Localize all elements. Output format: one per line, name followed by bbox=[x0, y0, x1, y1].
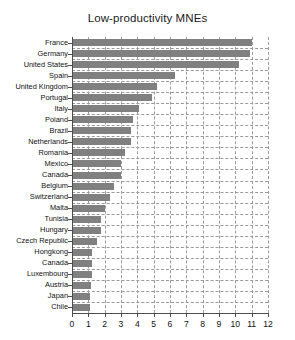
y-axis-tick bbox=[68, 274, 72, 275]
gridline-horizontal bbox=[72, 103, 268, 104]
y-axis-tick bbox=[68, 109, 72, 110]
x-axis-tick-label: 12 bbox=[258, 319, 278, 329]
gridline-horizontal bbox=[72, 247, 268, 248]
y-axis-tick bbox=[68, 296, 72, 297]
y-axis-tick-label: France bbox=[0, 39, 68, 47]
y-axis-tick-label: Austria bbox=[0, 281, 68, 289]
y-axis-tick bbox=[68, 241, 72, 242]
y-axis-tick bbox=[68, 54, 72, 55]
y-axis-tick bbox=[68, 285, 72, 286]
y-axis-tick bbox=[68, 164, 72, 165]
y-axis-tick-label: Hongkong bbox=[0, 248, 68, 256]
y-axis-tick-label: Canada bbox=[0, 171, 68, 179]
y-axis-tick-label: Luxembourg bbox=[0, 270, 68, 278]
gridline-vertical bbox=[203, 37, 204, 313]
gridline-vertical bbox=[235, 37, 236, 313]
bar bbox=[72, 72, 175, 79]
y-axis-tick bbox=[68, 98, 72, 99]
gridline-horizontal bbox=[72, 291, 268, 292]
gridline-horizontal bbox=[72, 280, 268, 281]
x-axis-tick bbox=[88, 313, 89, 317]
y-axis-tick bbox=[68, 142, 72, 143]
bar bbox=[72, 61, 239, 68]
y-axis-line bbox=[72, 37, 73, 314]
y-axis-tick bbox=[68, 263, 72, 264]
bar bbox=[72, 271, 92, 278]
y-axis-tick-label: Hungary bbox=[0, 226, 68, 234]
gridline-vertical bbox=[186, 37, 187, 313]
plot-area bbox=[72, 37, 268, 313]
y-axis-tick bbox=[68, 186, 72, 187]
bar bbox=[72, 238, 97, 245]
bar bbox=[72, 39, 252, 46]
y-axis-tick-label: Canada bbox=[0, 259, 68, 267]
y-axis-tick-label: Netherlands bbox=[0, 138, 68, 146]
bar bbox=[72, 116, 133, 123]
gridline-horizontal bbox=[72, 203, 268, 204]
gridline-horizontal bbox=[72, 136, 268, 137]
bar bbox=[72, 105, 139, 112]
x-axis-tick bbox=[219, 313, 220, 317]
bar bbox=[72, 304, 90, 311]
gridline-horizontal bbox=[72, 192, 268, 193]
bar bbox=[72, 149, 125, 156]
y-axis-tick-label: Malta bbox=[0, 204, 68, 212]
y-axis-tick-label: Portugal bbox=[0, 94, 68, 102]
x-axis-tick bbox=[137, 313, 138, 317]
y-axis-tick bbox=[68, 197, 72, 198]
y-axis-tick-label: Belgium bbox=[0, 182, 68, 190]
gridline-horizontal bbox=[72, 236, 268, 237]
gridline-horizontal bbox=[72, 92, 268, 93]
y-axis-tick-label: United Kingdom bbox=[0, 83, 68, 91]
gridline-horizontal bbox=[72, 59, 268, 60]
y-axis-tick-label: Germany bbox=[0, 50, 68, 58]
y-axis-tick bbox=[68, 175, 72, 176]
gridline-horizontal bbox=[72, 114, 268, 115]
y-axis-tick-label: Czech Republic bbox=[0, 237, 68, 245]
y-axis-tick-label: Brazil bbox=[0, 127, 68, 135]
y-axis-tick bbox=[68, 230, 72, 231]
gridline-vertical bbox=[268, 37, 269, 313]
chart-container: Low-productivity MNEs FranceGermanyUnite… bbox=[0, 0, 295, 340]
bar bbox=[72, 260, 92, 267]
y-axis-tick bbox=[68, 65, 72, 66]
y-axis-tick-label: Mexico bbox=[0, 160, 68, 168]
bar bbox=[72, 227, 101, 234]
y-axis-tick-label: Japan bbox=[0, 292, 68, 300]
bar bbox=[72, 127, 131, 134]
y-axis-tick bbox=[68, 153, 72, 154]
gridline-horizontal bbox=[72, 158, 268, 159]
gridline-horizontal bbox=[72, 81, 268, 82]
y-axis-tick-label: Spain bbox=[0, 72, 68, 80]
bar bbox=[72, 138, 131, 145]
gridline-horizontal bbox=[72, 181, 268, 182]
gridline-vertical bbox=[219, 37, 220, 313]
bar bbox=[72, 50, 250, 57]
x-axis-tick bbox=[72, 313, 73, 317]
x-axis-tick bbox=[235, 313, 236, 317]
y-axis-tick bbox=[68, 120, 72, 121]
y-axis-tick bbox=[68, 307, 72, 308]
y-axis-tick bbox=[68, 252, 72, 253]
y-axis-tick bbox=[68, 208, 72, 209]
bar bbox=[72, 94, 152, 101]
bar bbox=[72, 205, 105, 212]
y-axis-tick-label: Tunisia bbox=[0, 215, 68, 223]
x-axis-tick bbox=[170, 313, 171, 317]
gridline-horizontal bbox=[72, 225, 268, 226]
x-axis-tick bbox=[203, 313, 204, 317]
y-axis-tick bbox=[68, 87, 72, 88]
gridline-vertical bbox=[252, 37, 253, 313]
y-axis-tick-label: Italy bbox=[0, 105, 68, 113]
x-axis-tick bbox=[121, 313, 122, 317]
gridline-horizontal bbox=[72, 169, 268, 170]
gridline-horizontal bbox=[72, 269, 268, 270]
x-axis-tick bbox=[154, 313, 155, 317]
y-axis-tick bbox=[68, 219, 72, 220]
gridline-horizontal bbox=[72, 214, 268, 215]
gridline-horizontal bbox=[72, 258, 268, 259]
bar bbox=[72, 249, 92, 256]
y-axis-tick-label: Romania bbox=[0, 149, 68, 157]
y-axis-tick-label: Poland bbox=[0, 116, 68, 124]
gridline-horizontal bbox=[72, 48, 268, 49]
